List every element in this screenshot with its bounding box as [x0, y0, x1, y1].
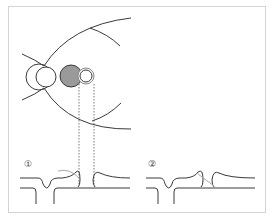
diagram-canvas — [0, 0, 273, 221]
dotted-projection-lines — [79, 84, 94, 186]
step1-label: ① — [24, 160, 32, 169]
concentric-circles — [26, 64, 56, 90]
step2-label: ② — [148, 160, 156, 169]
small-ring-circle — [78, 68, 94, 84]
membrane-step1 — [20, 171, 130, 204]
